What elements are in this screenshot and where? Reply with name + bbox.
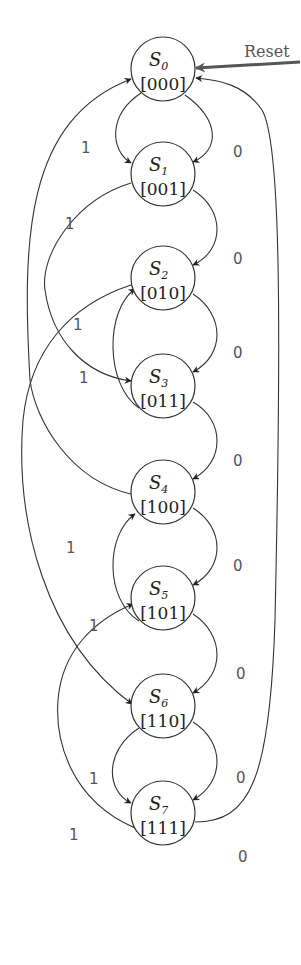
edge-s3-s4-0 (193, 402, 217, 479)
state-s0: S0 [000] (131, 37, 195, 101)
edge-s0-s1-0 (185, 95, 212, 162)
edge-label: 0 (236, 665, 246, 683)
state-diagram: Reset 0 0 0 0 0 0 0 0 1 1 1 1 1 1 (0, 0, 301, 965)
state-code: [101] (140, 603, 186, 623)
edge-label: 1 (89, 770, 99, 788)
reset-label: Reset (244, 42, 290, 61)
edge-label: 1 (79, 369, 89, 387)
edge-s7-s5-1 (58, 604, 135, 828)
edge-label: 1 (73, 316, 83, 334)
edge-s6-s7-0 (193, 722, 217, 800)
edge-s1-s2-0 (193, 190, 217, 265)
edge-s4-s5-0 (193, 508, 217, 585)
edge-label: 0 (233, 557, 243, 575)
state-code: [000] (140, 74, 186, 94)
edge-label: 0 (233, 344, 243, 362)
edge-s0-s1-1 (116, 93, 141, 163)
state-code: [010] (140, 283, 186, 303)
state-s4: S4 [100] (131, 460, 195, 524)
edge-label: 1 (89, 617, 99, 635)
state-s1: S1 [001] (131, 142, 195, 206)
edge-s2-s3-0 (193, 294, 217, 372)
reset-transition: Reset (196, 42, 300, 68)
state-s5: S5 [101] (131, 566, 195, 630)
edge-label: 1 (69, 826, 79, 844)
edge-s5-s6-0 (193, 614, 217, 693)
edge-s2-s6-1 (22, 285, 132, 704)
edge-label: 0 (233, 452, 243, 470)
state-s3: S3 [011] (131, 354, 195, 418)
edge-s1-s3-1 (45, 183, 131, 381)
one-transitions (22, 79, 141, 828)
edge-label: 1 (66, 539, 76, 557)
state-s2: S2 [010] (131, 246, 195, 310)
state-code: [100] (140, 497, 186, 517)
state-code: [011] (140, 391, 186, 411)
edge-label: 0 (238, 848, 248, 866)
edge-label: 1 (81, 139, 91, 157)
edge-label: 0 (233, 143, 243, 161)
edge-label: 0 (236, 769, 246, 787)
state-s7: S7 [111] (131, 781, 195, 845)
edge-s4-s0-1 (27, 79, 131, 494)
edge-label: 1 (65, 215, 75, 233)
state-code: [111] (140, 818, 186, 838)
edge-s6-s7-1 (112, 728, 139, 803)
zero-transitions (185, 78, 279, 822)
edge-label: 0 (233, 250, 243, 268)
state-code: [001] (140, 179, 186, 199)
edge-s7-s0-0 (195, 78, 279, 822)
state-code: [110] (140, 711, 186, 731)
reset-arrow-icon (196, 62, 300, 68)
state-s6: S6 [110] (131, 674, 195, 738)
